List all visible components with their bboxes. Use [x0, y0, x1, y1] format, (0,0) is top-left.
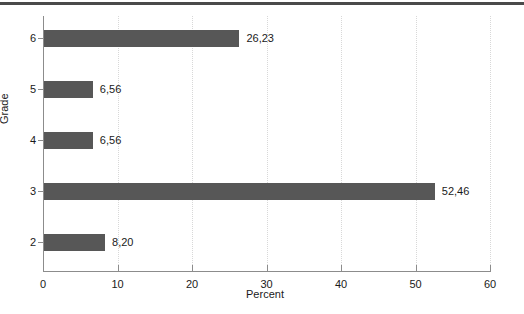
- bar-value-label: 26,23: [246, 30, 274, 47]
- x-axis-title: Percent: [0, 288, 524, 300]
- x-tick-mark: [118, 265, 119, 272]
- gridline: [416, 16, 417, 271]
- y-tick-mark: [38, 191, 43, 192]
- bar-value-label: 6,56: [100, 132, 121, 149]
- gridline: [490, 16, 491, 271]
- x-tick-mark: [341, 265, 342, 272]
- bar: [44, 183, 435, 200]
- bar-value-label: 6,56: [100, 81, 121, 98]
- y-tick-label: 3: [10, 183, 36, 200]
- x-tick-mark: [416, 265, 417, 272]
- x-tick-mark: [490, 265, 491, 272]
- y-tick-label: 5: [10, 81, 36, 98]
- y-tick-mark: [38, 242, 43, 243]
- y-tick-mark: [38, 38, 43, 39]
- y-tick-label: 6: [10, 30, 36, 47]
- bar: [44, 81, 93, 98]
- x-tick-mark: [192, 265, 193, 272]
- gridline: [192, 16, 193, 271]
- bar-value-label: 8,20: [112, 234, 133, 251]
- x-tick-mark: [267, 265, 268, 272]
- plot-area: 0102030405060 626,2356,5646,56352,4628,2…: [43, 16, 490, 271]
- bar: [44, 132, 93, 149]
- bar: [44, 30, 239, 47]
- y-tick-label: 4: [10, 132, 36, 149]
- x-axis-title-text: Percent: [246, 288, 284, 300]
- bar-chart-figure: Grade 0102030405060 626,2356,5646,56352,…: [0, 0, 524, 314]
- y-tick-mark: [38, 140, 43, 141]
- gridline: [267, 16, 268, 271]
- y-tick-mark: [38, 89, 43, 90]
- gridline: [341, 16, 342, 271]
- y-tick-label: 2: [10, 234, 36, 251]
- y-axis-title: Grade: [0, 93, 10, 124]
- bar-value-label: 52,46: [442, 183, 470, 200]
- bar: [44, 234, 105, 251]
- x-tick-mark: [43, 265, 44, 272]
- figure-top-rule: [0, 2, 524, 5]
